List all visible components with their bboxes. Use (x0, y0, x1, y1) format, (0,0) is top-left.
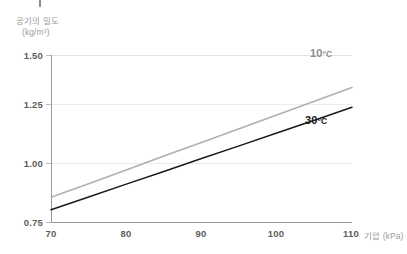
plot-lines (0, 0, 407, 254)
series-label-10c: 10°C (310, 47, 332, 59)
series-label-10c-degree: °C (322, 49, 332, 59)
series-label-30c-degree: °C (317, 116, 327, 126)
chart-container: 공기의 밀도 (kg/m³) 1.50 1.25 1.00 0.75 70 80… (0, 0, 407, 254)
series-label-30c-value: 30 (305, 114, 317, 126)
series-line-10c (51, 88, 352, 198)
series-label-10c-value: 10 (310, 47, 322, 59)
series-label-30c: 30°C (305, 114, 327, 126)
